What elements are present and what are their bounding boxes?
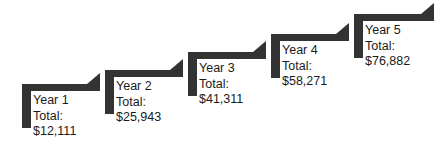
staircase-growth-diagram: Year 1 Total: $12,111 Year 2 Total: $25,… xyxy=(0,0,447,148)
step-year-label: Year 1 xyxy=(33,93,76,109)
step-year-label: Year 2 xyxy=(116,79,161,95)
step-tread-bar xyxy=(105,70,183,77)
step-label-block: Year 3 Total: $41,311 xyxy=(199,61,243,108)
step-arrowhead-icon xyxy=(87,73,100,84)
step-amount-value: $41,311 xyxy=(199,92,243,108)
step-amount-value: $58,271 xyxy=(282,74,327,90)
step-tread-bar xyxy=(271,34,349,41)
step-arrowhead-icon xyxy=(253,41,266,52)
step-arrowhead-icon xyxy=(421,3,434,14)
step-tread-bar xyxy=(22,84,100,91)
step-year-label: Year 5 xyxy=(365,23,410,39)
step-year-label: Year 4 xyxy=(282,43,327,59)
step-total-label: Total: xyxy=(33,109,76,125)
step-total-label: Total: xyxy=(116,95,161,111)
step-tread-bar xyxy=(188,52,266,59)
step-tread-bar xyxy=(354,14,434,21)
step-amount-value: $12,111 xyxy=(33,124,76,140)
step-arrowhead-icon xyxy=(336,23,349,34)
step-arrowhead-icon xyxy=(170,59,183,70)
step-label-block: Year 5 Total: $76,882 xyxy=(365,23,410,70)
step-year-label: Year 3 xyxy=(199,61,243,77)
step-amount-value: $76,882 xyxy=(365,54,410,70)
step-total-label: Total: xyxy=(199,77,243,93)
step-amount-value: $25,943 xyxy=(116,110,161,126)
step-total-label: Total: xyxy=(365,39,410,55)
step-label-block: Year 2 Total: $25,943 xyxy=(116,79,161,126)
step-total-label: Total: xyxy=(282,59,327,75)
step-label-block: Year 4 Total: $58,271 xyxy=(282,43,327,90)
step-label-block: Year 1 Total: $12,111 xyxy=(33,93,76,140)
